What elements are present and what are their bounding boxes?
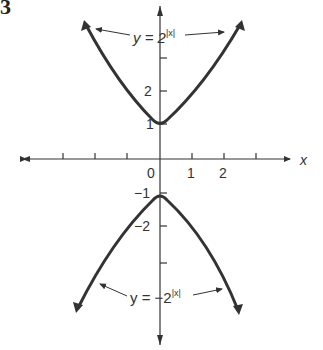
lower-equation-exponent: |x| — [172, 288, 181, 298]
upper-equation-exponent: |x| — [166, 28, 175, 38]
x-tick-label-1: 1 — [187, 165, 195, 181]
y-tick-label-2: 2 — [144, 83, 152, 99]
x-axis — [22, 156, 290, 162]
x-axis-label: x — [299, 152, 308, 168]
lower-curve-right-arrow — [233, 304, 243, 315]
lower-equation-base: y = −2 — [130, 289, 172, 306]
svg-text:y = −2|x|: y = −2|x| — [130, 288, 181, 306]
y-tick-label-neg2: −2 — [134, 218, 150, 234]
x-tick-label-2: 2 — [219, 165, 227, 181]
upper-equation-base: y = 2 — [132, 29, 167, 46]
y-axis-ticks — [160, 58, 167, 263]
lower-equation-annotation: y = −2|x| — [100, 284, 222, 306]
svg-text:y = 2|x|: y = 2|x| — [132, 28, 175, 46]
origin-label: 0 — [147, 165, 155, 181]
y-tick-label-neg1: −1 — [134, 185, 150, 201]
upper-equation-annotation: y = 2|x| — [96, 28, 224, 46]
chart-canvas: x 0 1 2 2 1 −1 −2 y = 2|x| y = −2|x — [0, 0, 323, 350]
